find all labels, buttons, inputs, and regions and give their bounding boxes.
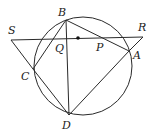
label-R: R bbox=[137, 21, 146, 34]
label-A: A bbox=[132, 49, 141, 62]
center-dot bbox=[76, 36, 80, 40]
label-D: D bbox=[61, 119, 71, 132]
segments bbox=[11, 20, 143, 115]
label-B: B bbox=[57, 6, 66, 19]
segment-BD bbox=[66, 20, 69, 115]
label-Q: Q bbox=[55, 42, 64, 55]
segment-CD bbox=[33, 69, 69, 115]
segment-DA bbox=[69, 51, 129, 115]
label-C: C bbox=[21, 70, 30, 83]
label-P: P bbox=[95, 41, 104, 54]
segment-SC bbox=[11, 40, 33, 69]
label-S: S bbox=[8, 24, 16, 37]
geometry-diagram: S B R Q P A C D bbox=[0, 0, 158, 140]
